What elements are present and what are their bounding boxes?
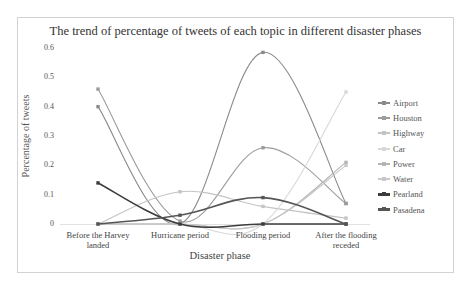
data-point-marker: [261, 146, 264, 149]
data-point-marker: [96, 87, 99, 90]
legend-item-pearland: Pearland: [378, 187, 425, 202]
legend-line-marker-icon: [378, 117, 390, 119]
series-line-houston: [98, 89, 346, 222]
data-point-marker: [178, 190, 181, 193]
legend-item-water: Water: [378, 171, 425, 186]
legend-line-marker-icon: [378, 193, 390, 196]
data-point-marker: [96, 181, 99, 184]
legend: AirportHoustonHighwayCarPowerWaterPearla…: [378, 95, 425, 217]
data-point-marker: [261, 222, 264, 225]
legend-item-highway: Highway: [378, 126, 425, 141]
legend-item-car: Car: [378, 141, 425, 156]
legend-item-airport: Airport: [378, 95, 425, 110]
data-point-marker: [344, 164, 347, 167]
legend-item-houston: Houston: [378, 110, 425, 125]
series-line-water: [98, 165, 346, 228]
data-point-marker: [96, 222, 99, 225]
x-axis-label: Disaster phase: [0, 250, 440, 261]
data-point-marker: [261, 196, 264, 199]
legend-item-pasadena: Pasadena: [378, 202, 425, 217]
x-tick-label: After the floodingreceded: [301, 230, 391, 250]
data-point-marker: [344, 202, 347, 205]
legend-item-power: Power: [378, 156, 425, 171]
x-tick-label: Hurricane period: [135, 230, 225, 240]
legend-line-marker-icon: [378, 102, 390, 104]
legend-label: Water: [393, 174, 413, 184]
data-point-marker: [344, 161, 347, 164]
x-tick-label: Before the Harveylanded: [53, 230, 143, 250]
data-point-marker: [178, 214, 181, 217]
legend-label: Pasadena: [393, 205, 425, 215]
data-point-marker: [178, 219, 181, 222]
data-point-marker: [344, 222, 347, 225]
legend-line-marker-icon: [378, 208, 390, 211]
legend-label: Highway: [393, 128, 424, 138]
legend-label: Airport: [393, 98, 418, 108]
legend-label: Power: [393, 159, 415, 169]
legend-label: Pearland: [393, 189, 423, 199]
legend-label: Car: [393, 144, 405, 154]
data-point-marker: [344, 90, 347, 93]
legend-line-marker-icon: [378, 163, 390, 165]
legend-line-marker-icon: [378, 148, 390, 150]
legend-line-marker-icon: [378, 178, 390, 180]
data-point-marker: [261, 51, 264, 54]
legend-label: Houston: [393, 113, 422, 123]
data-point-marker: [178, 222, 181, 225]
data-point-marker: [261, 205, 264, 208]
x-tick-label: Flooding period: [218, 230, 308, 240]
data-point-marker: [96, 105, 99, 108]
series-line-pasadena: [98, 197, 346, 224]
series-line-airport: [98, 52, 346, 224]
legend-line-marker-icon: [378, 132, 390, 134]
data-point-marker: [344, 216, 347, 219]
